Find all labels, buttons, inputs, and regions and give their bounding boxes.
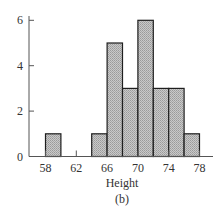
histogram-bar-72-74: [153, 88, 168, 156]
y-tick-label: 4: [17, 59, 23, 73]
histogram-bar-58-60: [46, 134, 61, 157]
y-ticks-group: 0246: [17, 13, 34, 163]
x-tick-label: 78: [194, 161, 206, 175]
y-tick-label: 0: [17, 150, 23, 164]
bars-group: [46, 20, 200, 156]
histogram-bar-66-68: [107, 43, 122, 157]
y-tick-label: 2: [17, 104, 23, 118]
x-tick-label: 66: [101, 161, 113, 175]
histogram-bar-68-70: [123, 88, 138, 156]
x-tick-label: 62: [70, 161, 82, 175]
x-tick-label: 70: [132, 161, 144, 175]
histogram-bar-64-66: [92, 134, 107, 157]
chart-caption: (b): [115, 192, 129, 206]
histogram-chart: 0246 586266707478 Height (b): [0, 0, 222, 213]
y-tick-label: 6: [17, 13, 23, 27]
x-tick-label: 74: [163, 161, 175, 175]
histogram-bar-70-72: [138, 20, 153, 156]
histogram-bar-74-76: [169, 88, 184, 156]
x-axis-title: Height: [106, 176, 139, 190]
x-tick-label: 58: [40, 161, 52, 175]
histogram-bar-76-78: [184, 134, 199, 157]
